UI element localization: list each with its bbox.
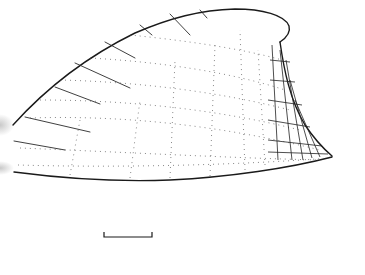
scale-bar: [104, 232, 152, 237]
shell-outline: [13, 9, 332, 181]
shell-illustration: [0, 0, 365, 275]
stipple-radial-lines: [18, 30, 330, 178]
growth-lines: [14, 10, 207, 150]
